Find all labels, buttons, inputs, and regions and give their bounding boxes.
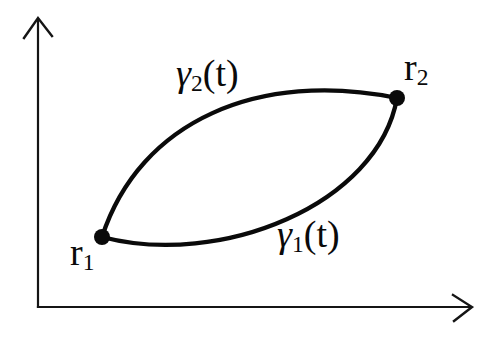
label-r2: r2 (404, 48, 428, 90)
label-gamma1: γ1(t) (277, 215, 340, 257)
label-r2-subscript: 2 (417, 64, 429, 90)
point-r1-dot (94, 229, 110, 245)
label-gamma2-base: γ (176, 52, 191, 94)
figure-canvas: γ2(t) r2 γ1(t) r1 (0, 0, 499, 341)
label-gamma2-argument: (t) (203, 52, 239, 94)
label-r1: r1 (70, 233, 94, 275)
label-gamma1-base: γ (277, 213, 292, 255)
label-r1-base: r (70, 231, 83, 273)
curve-gamma1-lower (102, 98, 397, 245)
label-gamma1-subscript: 1 (292, 231, 304, 257)
curve-gamma2-upper (102, 90, 397, 237)
label-r2-base: r (404, 46, 417, 88)
point-r2-dot (389, 90, 405, 106)
label-r1-subscript: 1 (83, 249, 95, 275)
label-gamma2-subscript: 2 (191, 70, 203, 96)
label-gamma1-argument: (t) (304, 213, 340, 255)
label-gamma2: γ2(t) (176, 54, 239, 96)
